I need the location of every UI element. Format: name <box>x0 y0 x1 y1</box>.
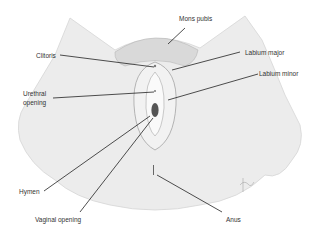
label-anus: Anus <box>226 216 241 224</box>
lower-marker <box>154 90 156 92</box>
label-labium-major: Labium major <box>245 49 284 57</box>
label-labium-minor: Labium minor <box>259 70 298 78</box>
label-clitoris: Clitoris <box>36 52 56 60</box>
label-mons-pubis: Mons pubis <box>179 15 212 23</box>
anatomy-figure <box>0 0 311 236</box>
diagram-canvas: Mons pubis Clitoris Labium major Labium … <box>0 0 311 236</box>
label-urethral-opening-line1: Urethral <box>23 90 46 98</box>
label-urethral-opening-line2: opening <box>23 99 46 107</box>
label-hymen: Hymen <box>19 188 40 196</box>
opening-marker <box>151 103 158 117</box>
upper-marker <box>154 65 156 67</box>
label-vaginal-opening: Vaginal opening <box>35 216 81 224</box>
